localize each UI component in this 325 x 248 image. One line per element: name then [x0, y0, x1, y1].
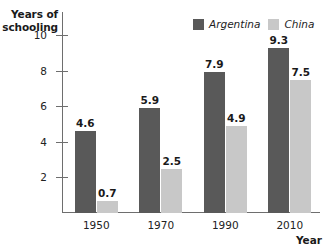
- y-axis-tick: 4: [56, 142, 68, 143]
- bar-value-label: 9.3: [269, 34, 288, 46]
- y-axis-title-line-2: schooling: [2, 21, 58, 34]
- bar-china-1990: 4.9: [226, 126, 247, 213]
- y-axis-title-line-1: Years of: [2, 8, 58, 21]
- y-axis-tick: 6: [56, 106, 68, 107]
- y-axis-line: [62, 12, 63, 213]
- bar-china-1950: 0.7: [97, 201, 118, 213]
- x-axis-label-1950: 1950: [83, 219, 110, 231]
- y-axis-title: Years of schooling: [2, 8, 58, 33]
- y-axis-tick-label: 6: [40, 100, 47, 112]
- bar-value-label: 4.9: [227, 112, 246, 124]
- y-axis-tick-label: 2: [40, 171, 47, 183]
- y-axis-tick: 8: [56, 71, 68, 72]
- bar-argentina-1970: 5.9: [139, 108, 160, 213]
- x-axis-label-1970: 1970: [147, 219, 174, 231]
- bar-value-label: 4.6: [76, 117, 95, 129]
- bar-argentina-2010: 9.3: [268, 48, 289, 213]
- bar-argentina-1990: 7.9: [204, 72, 225, 213]
- x-axis-title: Year: [296, 234, 322, 246]
- bar-value-label: 2.5: [162, 155, 181, 167]
- bar-value-label: 0.7: [98, 187, 117, 199]
- x-axis-label-2010: 2010: [276, 219, 303, 231]
- bar-chart: Years of schooling Argentina China 24681…: [0, 0, 325, 248]
- bar-china-1970: 2.5: [161, 169, 182, 213]
- plot-area: 246810 4.60.75.92.57.94.99.37.5 19501970…: [62, 12, 320, 213]
- y-axis-tick-label: 4: [40, 136, 47, 148]
- y-axis-tick: 10: [56, 35, 68, 36]
- x-axis-label-1990: 1990: [212, 219, 239, 231]
- bar-value-label: 7.5: [291, 66, 310, 78]
- bar-value-label: 5.9: [140, 94, 159, 106]
- bar-china-2010: 7.5: [290, 80, 311, 213]
- y-axis-tick-label: 8: [40, 65, 47, 77]
- bar-argentina-1950: 4.6: [75, 131, 96, 213]
- y-axis-tick: 2: [56, 177, 68, 178]
- bar-value-label: 7.9: [205, 58, 224, 70]
- y-axis-tick-label: 10: [34, 29, 47, 41]
